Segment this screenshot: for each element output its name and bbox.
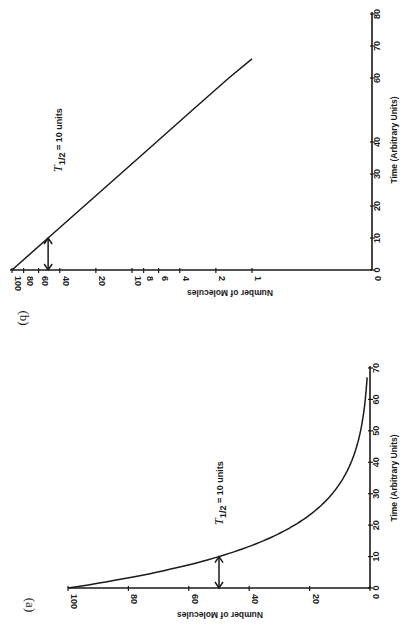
tick-label: 10	[372, 233, 382, 243]
tick-label: 60	[40, 276, 50, 286]
tick-label: 6	[160, 276, 170, 281]
half-life-value: = 10 units	[54, 108, 64, 150]
panel-b-xlabel: Time (Arbitrary Units)	[389, 96, 399, 183]
tick-label: 0	[371, 585, 381, 590]
tick-label: 2	[217, 276, 227, 281]
tick-label: 80	[129, 594, 139, 604]
panel-a-half-life-annotation: T 1/2 = 10 units	[212, 461, 228, 525]
tick-label: 100	[69, 594, 79, 609]
panel-b-n-ticks: 1008060402010864210	[12, 268, 383, 291]
tick-label: 70	[372, 41, 382, 51]
tick-label: 60	[371, 394, 381, 404]
tick-label: 0	[372, 267, 382, 272]
tick-label: 40	[61, 276, 71, 286]
tick-label: 40	[372, 137, 382, 147]
tick-label: 20	[371, 520, 381, 530]
tick-label: 60	[190, 594, 200, 604]
panel-b: 1008060402010864210 010203040607080 Numb…	[10, 9, 399, 326]
tick-label: 80	[25, 276, 35, 286]
tick-label: 40	[371, 457, 381, 467]
tick-label: 0	[373, 276, 383, 281]
tick-label: 40	[250, 594, 260, 604]
half-life-subscript: 1/2	[218, 505, 228, 518]
panel-b-half-life-arrow	[44, 238, 52, 270]
tick-label: 70	[371, 363, 381, 373]
tick-label: 50	[371, 426, 381, 436]
panel-a-half-life-arrow	[215, 557, 223, 588]
tick-label: 60	[372, 73, 382, 83]
panel-b-half-life-annotation: T 1/2 = 10 units	[51, 108, 67, 172]
tick-label: 0	[371, 594, 381, 599]
panel-a-label: (a)	[23, 598, 38, 612]
tick-label: 30	[371, 489, 381, 499]
tick-label: 100	[13, 276, 23, 291]
panel-b-ylabel: Number of Molecules	[187, 288, 273, 298]
tick-label: 20	[311, 594, 321, 604]
half-life-value: = 10 units	[215, 461, 225, 503]
panel-b-label: (b)	[17, 310, 32, 325]
tick-label: 10	[371, 552, 381, 562]
tick-label: 30	[372, 169, 382, 179]
tick-label: 8	[145, 276, 155, 281]
tick-label: 80	[372, 9, 382, 19]
half-life-subscript: 1/2	[57, 152, 67, 165]
tick-label: 4	[181, 276, 191, 281]
panel-a-xlabel: Time (Arbitrary Units)	[389, 434, 399, 521]
panel-a: 100806040200 010203040506070 Number of M…	[23, 363, 399, 620]
panel-a-n-ticks: 100806040200	[68, 586, 381, 609]
tick-label: 10	[133, 276, 143, 286]
panel-a-ylabel: Number of Molecules	[177, 610, 263, 620]
tick-label: 20	[372, 201, 382, 211]
tick-label: 20	[97, 276, 107, 286]
figure: 1008060402010864210 010203040607080 Numb…	[0, 0, 410, 628]
tick-label: 1	[253, 276, 263, 281]
